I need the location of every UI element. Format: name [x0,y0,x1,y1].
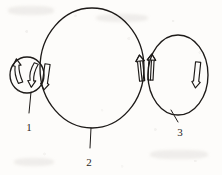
arrow-junction-left-down-icon [40,64,52,91]
circle-2-large-center [40,8,144,128]
leader-line-3 [171,110,178,122]
arrow-c1-left-up-icon [12,58,25,84]
callout-label-1: 1 [26,121,32,133]
callout-label-2: 2 [86,156,92,168]
circles-diagram: 1 2 3 [0,0,222,175]
leader-line-2 [90,128,91,148]
arrow-c1-right-down-icon [26,62,40,88]
callout-label-3: 3 [177,126,183,138]
arrow-c3-right-down-icon [191,62,202,89]
leader-line-1 [29,92,31,113]
figure-canvas: 1 2 3 [0,0,222,175]
